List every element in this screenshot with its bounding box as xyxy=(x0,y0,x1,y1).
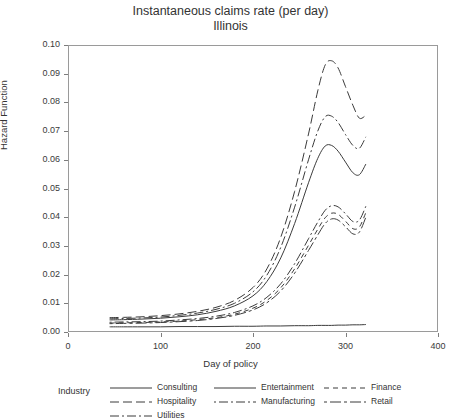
legend-swatch-utilities xyxy=(110,411,152,420)
x-tick-mark xyxy=(438,333,439,337)
y-tick-label: 0.04 xyxy=(26,211,60,221)
x-tick-label: 100 xyxy=(141,341,181,351)
legend-swatch-consulting xyxy=(110,383,152,392)
legend-item-utilities[interactable]: Utilities xyxy=(110,408,214,420)
y-tick-mark xyxy=(64,303,68,304)
legend-label: Entertainment xyxy=(261,382,314,392)
x-tick-label: 200 xyxy=(233,341,273,351)
y-tick-label: 0.08 xyxy=(26,96,60,106)
legend-title: Industry xyxy=(58,386,90,396)
legend-entries: ConsultingEntertainmentFinanceHospitalit… xyxy=(110,380,424,420)
y-tick-mark xyxy=(64,160,68,161)
plot-area xyxy=(68,45,438,332)
legend-swatch-retail xyxy=(324,397,366,406)
x-tick-label: 0 xyxy=(48,341,88,351)
y-tick-mark xyxy=(64,45,68,46)
x-tick-label: 300 xyxy=(326,341,366,351)
x-tick-mark xyxy=(68,333,69,337)
chart-title-block: Instantaneous claims rate (per day) Illi… xyxy=(0,4,461,34)
legend-item-manufacturing[interactable]: Manufacturing xyxy=(214,394,324,408)
legend-swatch-manufacturing xyxy=(214,397,256,406)
y-tick-mark xyxy=(64,217,68,218)
y-tick-label: 0.01 xyxy=(26,297,60,307)
y-tick-label: 0.10 xyxy=(26,39,60,49)
x-axis-title: Day of policy xyxy=(0,358,461,369)
legend-label: Hospitality xyxy=(157,396,196,406)
y-tick-mark xyxy=(64,131,68,132)
y-tick-label: 0.00 xyxy=(26,326,60,336)
y-tick-mark xyxy=(64,246,68,247)
chart-subtitle: Illinois xyxy=(0,19,461,34)
legend-swatch-finance xyxy=(324,383,366,392)
legend-label: Retail xyxy=(371,396,393,406)
x-tick-label: 400 xyxy=(418,341,458,351)
y-tick-mark xyxy=(64,102,68,103)
legend-item-consulting[interactable]: Consulting xyxy=(110,380,214,394)
y-tick-label: 0.03 xyxy=(26,240,60,250)
y-tick-label: 0.07 xyxy=(26,125,60,135)
legend-swatch-hospitality xyxy=(110,397,152,406)
legend-item-retail[interactable]: Retail xyxy=(324,394,424,408)
legend-label: Consulting xyxy=(157,382,197,392)
legend-label: Manufacturing xyxy=(261,396,315,406)
y-tick-label: 0.05 xyxy=(26,183,60,193)
x-tick-mark xyxy=(161,333,162,337)
x-tick-mark xyxy=(346,333,347,337)
y-tick-label: 0.06 xyxy=(26,154,60,164)
legend-swatch-entertainment xyxy=(214,383,256,392)
legend-item-hospitality[interactable]: Hospitality xyxy=(110,394,214,408)
x-tick-mark xyxy=(253,333,254,337)
y-tick-label: 0.02 xyxy=(26,269,60,279)
y-axis-title: Hazard Function xyxy=(0,80,9,150)
y-tick-label: 0.09 xyxy=(26,68,60,78)
legend-label: Finance xyxy=(371,382,401,392)
y-tick-mark xyxy=(64,74,68,75)
hazard-function-chart: Instantaneous claims rate (per day) Illi… xyxy=(0,0,461,420)
y-tick-mark xyxy=(64,189,68,190)
legend-item-entertainment[interactable]: Entertainment xyxy=(214,380,324,394)
legend-item-finance[interactable]: Finance xyxy=(324,380,424,394)
chart-title: Instantaneous claims rate (per day) xyxy=(0,4,461,19)
y-tick-mark xyxy=(64,275,68,276)
legend-label: Utilities xyxy=(157,410,184,420)
